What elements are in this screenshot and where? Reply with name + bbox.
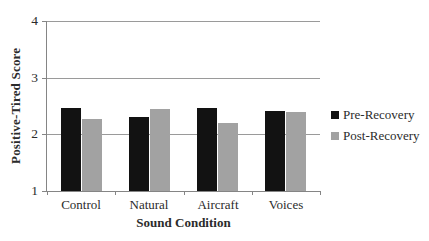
bar-post-recovery-voices xyxy=(286,112,306,191)
bar-pre-recovery-voices xyxy=(265,111,285,191)
x-axis-title: Sound Condition xyxy=(47,215,320,231)
y-tick-label: 1 xyxy=(0,183,38,199)
bar-post-recovery-natural xyxy=(150,109,170,191)
x-tick-label-aircraft: Aircraft xyxy=(184,197,252,212)
legend-label: Post-Recovery xyxy=(343,129,420,143)
gridline-y3 xyxy=(47,78,320,79)
y-tick-label: 4 xyxy=(0,13,38,29)
legend-swatch-icon xyxy=(331,111,339,119)
bar-chart: Positive-Tired Score 1234ControlNaturalA… xyxy=(0,0,429,241)
gridline-y4 xyxy=(47,21,320,22)
bar-post-recovery-control xyxy=(82,119,102,191)
legend-item-post-recovery: Post-Recovery xyxy=(331,129,420,143)
x-axis xyxy=(46,191,321,192)
bar-post-recovery-aircraft xyxy=(218,123,238,191)
legend-item-pre-recovery: Pre-Recovery xyxy=(331,108,420,122)
legend-label: Pre-Recovery xyxy=(343,108,414,122)
y-tick-label: 3 xyxy=(0,70,38,86)
y-tick-label: 2 xyxy=(0,126,38,142)
x-tick-label-natural: Natural xyxy=(115,197,183,212)
y-axis-title: Positive-Tired Score xyxy=(8,21,25,191)
bar-pre-recovery-control xyxy=(61,108,81,191)
legend-swatch-icon xyxy=(331,132,339,140)
x-tick-label-voices: Voices xyxy=(252,197,320,212)
bar-pre-recovery-natural xyxy=(129,117,149,191)
y-axis xyxy=(46,21,47,192)
legend: Pre-RecoveryPost-Recovery xyxy=(331,108,420,143)
x-tick-label-control: Control xyxy=(47,197,115,212)
bar-pre-recovery-aircraft xyxy=(197,108,217,191)
